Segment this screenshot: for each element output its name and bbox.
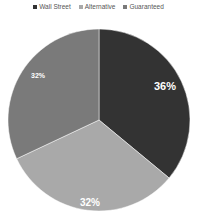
pie-slices — [8, 29, 190, 211]
slice-label-guaranteed: 32% — [31, 72, 46, 79]
slice-label-alternative: 32% — [80, 197, 100, 208]
pie-chart: 36% 32% 32% — [0, 0, 197, 218]
slice-label-wall-street: 36% — [154, 80, 176, 92]
